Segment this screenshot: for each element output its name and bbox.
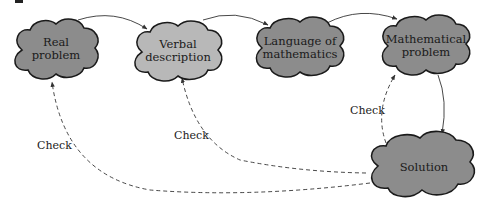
- check-label-verbal: Check: [174, 129, 209, 142]
- label-line: Solution: [400, 161, 449, 174]
- edge-math-to-solution: [438, 75, 444, 134]
- check-label-math: Check: [350, 104, 385, 117]
- edge-real-to-verbal: [78, 16, 147, 29]
- edge-verbal-to-language: [203, 15, 268, 25]
- label-real-problem: Real problem: [32, 36, 81, 62]
- label-line: problem: [32, 49, 81, 62]
- label-language-of-mathematics: Language of mathematics: [263, 35, 338, 61]
- check-label-real: Check: [37, 139, 72, 152]
- edge-check-solution-to-verbal: [182, 78, 366, 173]
- label-verbal-description: Verbal description: [145, 38, 211, 64]
- edge-language-to-math: [327, 13, 397, 23]
- label-line: mathematics: [263, 48, 338, 61]
- label-solution: Solution: [400, 161, 449, 174]
- label-line: description: [145, 51, 211, 64]
- label-line: problem: [386, 46, 467, 59]
- label-mathematical-problem: Mathematical problem: [386, 33, 467, 59]
- edge-check-solution-to-real: [52, 82, 370, 193]
